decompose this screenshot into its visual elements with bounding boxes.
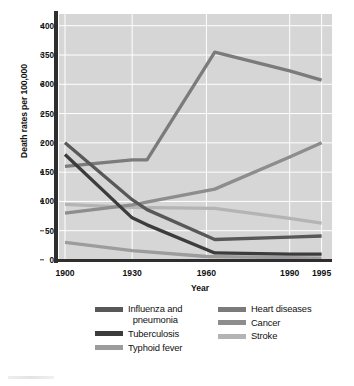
y-tick-mark [40, 230, 44, 231]
legend-label: Stroke [251, 330, 277, 341]
y-tick-mark [40, 171, 44, 172]
legend-item[interactable]: Stroke [218, 330, 348, 341]
y-tick-label: 50 [20, 226, 54, 235]
x-axis-title-text: Year [145, 283, 209, 293]
y-tick-label: 350 [20, 51, 54, 60]
y-tick-label: 150 [20, 168, 54, 177]
gridlines [59, 14, 332, 260]
x-tick-label: 1960 [197, 268, 216, 278]
line-chart: Death rates per 100,000 0501001502002503… [0, 0, 354, 386]
x-tick-label: 1900 [55, 268, 74, 278]
y-tick-mark [40, 113, 44, 114]
x-axis-title: Year [0, 283, 354, 293]
chart-legend: Influenza andpneumoniaTuberculosisTyphoi… [0, 303, 354, 365]
legend-swatch [95, 345, 123, 350]
series-line [65, 52, 322, 166]
y-tick-label: 100 [20, 197, 54, 206]
y-tick-mark [40, 201, 44, 202]
legend-column-right: Heart diseasesCancerStroke [218, 303, 348, 344]
x-tick-label: 1930 [123, 268, 142, 278]
legend-swatch [218, 334, 246, 339]
series-line [65, 143, 322, 213]
plot-svg [59, 14, 332, 260]
y-tick-label: 200 [20, 138, 54, 147]
x-tick-label: 1990 [280, 268, 299, 278]
y-tick-mark [40, 54, 44, 55]
legend-swatch [218, 307, 246, 312]
series-lines [65, 52, 322, 258]
y-tick-mark [40, 25, 44, 26]
legend-item[interactable]: Heart diseases [218, 303, 348, 314]
legend-swatch [95, 307, 123, 312]
y-tick-label: 400 [20, 21, 54, 30]
legend-label: Tuberculosis [128, 328, 179, 339]
y-tick-label: 300 [20, 80, 54, 89]
legend-label: Heart diseases [251, 303, 311, 314]
y-tick-mark [40, 84, 44, 85]
legend-label: Typhoid fever [128, 342, 182, 353]
legend-label-line2: pneumonia [128, 314, 182, 325]
legend-label: Influenza andpneumonia [128, 303, 182, 325]
x-axis-spine [54, 259, 332, 262]
legend-column-left: Influenza andpneumoniaTuberculosisTyphoi… [95, 303, 215, 355]
legend-item[interactable]: Influenza andpneumonia [95, 303, 215, 325]
x-tick-label: 1995 [312, 268, 331, 278]
y-tick-mark [40, 259, 44, 260]
page-scan-artifact [8, 376, 54, 379]
legend-item[interactable]: Typhoid fever [95, 342, 215, 353]
legend-swatch [218, 320, 246, 325]
legend-item[interactable]: Cancer [218, 317, 348, 328]
plot-area [59, 14, 332, 260]
legend-label: Cancer [251, 317, 280, 328]
y-tick-label: 250 [20, 109, 54, 118]
series-line [65, 155, 322, 255]
y-tick-label: 0 [20, 256, 54, 265]
y-axis-spine [54, 11, 58, 263]
legend-swatch [95, 331, 123, 336]
y-tick-mark [40, 142, 44, 143]
legend-item[interactable]: Tuberculosis [95, 328, 215, 339]
